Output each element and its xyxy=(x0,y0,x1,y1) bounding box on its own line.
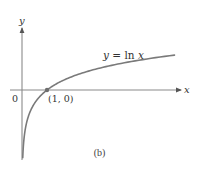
curve-label: y = ln x xyxy=(102,49,144,61)
point-label: (1, 0) xyxy=(48,93,74,104)
ln-curve xyxy=(23,55,175,158)
origin-label: 0 xyxy=(12,93,18,104)
point-1-0-marker xyxy=(45,88,49,92)
y-axis-label: y xyxy=(18,15,25,26)
figure-caption: (b) xyxy=(0,147,199,158)
ln-graph-figure: y x 0 (1, 0) y = ln x (b) xyxy=(0,0,199,173)
x-axis-label: x xyxy=(184,84,190,95)
